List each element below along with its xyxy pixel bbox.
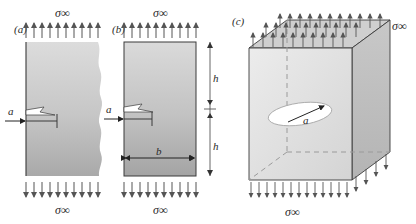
panel-a-label: (a) — [14, 23, 27, 36]
panel-b-height-dimensions: h h — [204, 42, 219, 176]
panel-c: (c) σ∞ — [232, 14, 407, 219]
panel-b-width-label: b — [156, 145, 162, 157]
panel-a: (a) σ∞ a σ∞ — [5, 6, 102, 217]
panel-b-bottom-stress-label: σ∞ — [153, 203, 168, 217]
panel-c-label: (c) — [232, 15, 245, 28]
panel-b-label: (b) — [112, 23, 125, 36]
panel-c-top-stress-label: σ∞ — [392, 19, 407, 33]
panel-c-bottom-stress-label: σ∞ — [285, 205, 300, 219]
panel-b-height-label-lower: h — [213, 140, 219, 152]
panel-a-bottom-stress-label: σ∞ — [55, 203, 70, 217]
panel-b-bottom-arrows — [124, 182, 196, 197]
panel-b-top-stress-label: σ∞ — [153, 6, 168, 20]
panel-b-crack-label: a — [106, 103, 112, 115]
cube-bottom-arrows — [251, 182, 347, 197]
panel-a-crack-label: a — [8, 105, 14, 117]
panel-b-top-arrows — [124, 23, 196, 38]
panel-b: (b) σ∞ a b σ∞ — [104, 6, 219, 217]
panel-a-bottom-arrows — [26, 182, 98, 197]
panel-a-top-arrows — [26, 23, 98, 38]
cube-right-face — [352, 20, 390, 180]
fracture-mechanics-figure: (a) σ∞ a σ∞ (b) σ∞ — [0, 0, 416, 224]
panel-b-height-label-upper: h — [213, 72, 219, 84]
panel-c-crack-radius-label: a — [303, 114, 309, 126]
panel-a-top-stress-label: σ∞ — [55, 6, 70, 20]
